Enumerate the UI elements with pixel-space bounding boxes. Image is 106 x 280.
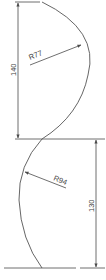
radius-label-r94: R94	[52, 174, 68, 188]
profile-drawing: 140 R77 R94 130	[0, 0, 106, 280]
dimension-label-140: 140	[9, 63, 18, 76]
lower-arc	[19, 139, 42, 268]
radius-label-r77: R77	[27, 48, 43, 62]
upper-arc	[42, 2, 90, 139]
dimension-label-130: 130	[87, 199, 96, 212]
